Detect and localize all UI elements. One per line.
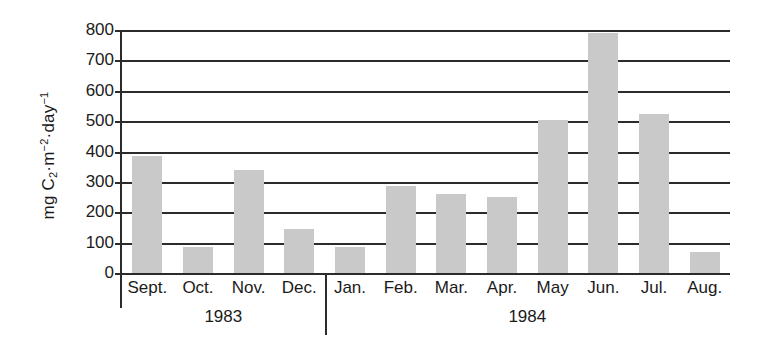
y-axis-title: mg C2·m−2·day−1 [38,31,59,281]
bar-nov [234,170,264,273]
x-axis-label-feb: Feb. [375,273,426,302]
y-axis-title-mid2: ·day [39,105,58,139]
plot-area [122,30,730,273]
bar-oct [183,247,213,273]
bar-chart: mg C2·m−2·day−1 010020030040050060070080… [0,0,765,343]
y-tick-label-500: 500 [58,111,114,131]
y-axis-title-mid: ·m [39,151,58,171]
y-tick-label-200: 200 [58,202,114,222]
x-axis-month-labels: Sept.Oct.Nov.Dec.Jan.Feb.Mar.Apr.MayJun.… [122,273,730,302]
y-axis-title-sub-2: 2 [47,172,59,178]
y-tick-label-400: 400 [58,142,114,162]
y-tick-label-600: 600 [58,81,114,101]
x-axis-label-aug: Aug. [679,273,730,302]
y-tick-label-700: 700 [58,50,114,70]
y-tick-label-800: 800 [58,20,114,40]
bar-mar [436,194,466,273]
y-tick-label-300: 300 [58,172,114,192]
x-axis-label-jul: Jul. [629,273,680,302]
y-axis-title-sup-minus1: −1 [38,92,50,105]
y-axis-title-sup-minus2: −2 [38,138,50,151]
x-axis-label-may: May [527,273,578,302]
x-axis-label-jun: Jun. [578,273,629,302]
y-axis-title-prefix: mg C [39,178,58,219]
year-label-1984: 1984 [325,302,730,334]
x-axis-label-mar: Mar. [426,273,477,302]
bar-jun [588,33,618,273]
x-axis-label-sept: Sept. [122,273,173,302]
bar-dec [284,229,314,273]
group-separator-1984 [325,273,327,335]
bar-apr [487,197,517,273]
bar-jan [335,247,365,273]
bar-series [122,30,730,273]
y-tick-label-0: 0 [58,263,114,283]
x-axis-year-labels: 19831984 [122,302,730,336]
bar-feb [386,186,416,273]
bar-sept [132,156,162,273]
bar-aug [690,252,720,273]
y-tick-label-100: 100 [58,233,114,253]
bar-jul [639,114,669,273]
y-axis-tick-labels: 0100200300400500600700800 [58,0,114,343]
x-axis-label-apr: Apr. [477,273,528,302]
x-axis-label-jan: Jan. [325,273,376,302]
x-axis-label-dec: Dec. [274,273,325,302]
bar-may [538,120,568,273]
x-axis-label-oct: Oct. [173,273,224,302]
year-label-1983: 1983 [122,302,325,334]
x-axis-label-nov: Nov. [223,273,274,302]
